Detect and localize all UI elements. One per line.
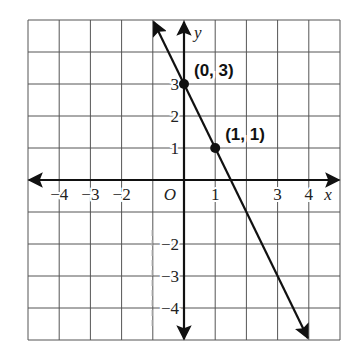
y-tick-label: −3 <box>161 267 179 286</box>
y-tick-label: −2 <box>161 235 179 254</box>
x-tick-label: 4 <box>305 185 314 204</box>
coordinate-graph: −4−3−2134321−2−3−4Oxy (0, 3)(1, 1) <box>0 0 353 353</box>
data-point <box>179 79 189 89</box>
y-tick-label: 2 <box>171 107 180 126</box>
y-tick-label: 3 <box>171 75 180 94</box>
origin-label: O <box>164 185 176 204</box>
point-label: (1, 1) <box>225 125 265 144</box>
x-tick-label: 1 <box>211 185 220 204</box>
x-tick-label: −4 <box>50 185 69 204</box>
y-axis-label: y <box>192 23 202 42</box>
x-tick-label: −3 <box>81 185 99 204</box>
y-tick-label: −4 <box>161 299 180 318</box>
x-axis-label: x <box>323 185 332 204</box>
x-tick-label: 3 <box>273 185 282 204</box>
data-point <box>210 143 220 153</box>
y-tick-label: 1 <box>171 139 180 158</box>
point-label: (0, 3) <box>194 61 234 80</box>
x-tick-label: −2 <box>113 185 131 204</box>
